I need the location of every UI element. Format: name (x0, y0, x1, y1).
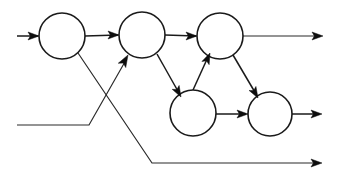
directed-graph-svg (0, 0, 337, 180)
edge-input-bottom-to-node2 (17, 60, 126, 125)
edge-node2-to-node4 (157, 54, 179, 93)
edge-node4-to-node3 (193, 57, 208, 90)
node-group (39, 12, 292, 136)
diagram-canvas (0, 0, 337, 180)
node-n4[interactable] (170, 90, 216, 136)
node-n3[interactable] (197, 13, 243, 59)
node-n2[interactable] (119, 12, 165, 58)
edge-node3-to-node5 (233, 55, 256, 94)
node-n5[interactable] (248, 92, 292, 136)
arrowhead-node3-node5 (249, 86, 258, 98)
arrowhead-node2-node4 (172, 85, 181, 97)
node-n1[interactable] (39, 13, 85, 59)
